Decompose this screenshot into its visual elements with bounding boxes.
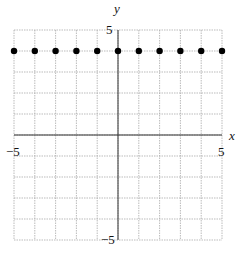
- data-point: [219, 48, 225, 54]
- axes: [14, 30, 222, 240]
- data-point: [52, 48, 58, 54]
- y-max-tick-label: 5: [106, 23, 113, 36]
- x-max-tick-label: 5: [218, 145, 225, 158]
- data-point: [156, 48, 162, 54]
- data-point: [11, 48, 17, 54]
- data-point: [198, 48, 204, 54]
- data-point: [136, 48, 142, 54]
- data-point: [73, 48, 79, 54]
- y-axis-label: y: [114, 2, 120, 15]
- data-point: [115, 48, 121, 54]
- y-min-tick-label: −5: [101, 233, 115, 246]
- data-point: [94, 48, 100, 54]
- data-point: [177, 48, 183, 54]
- x-min-tick-label: −5: [6, 145, 20, 158]
- coordinate-plane: [0, 0, 243, 256]
- data-point: [32, 48, 38, 54]
- x-axis-label: x: [229, 129, 235, 142]
